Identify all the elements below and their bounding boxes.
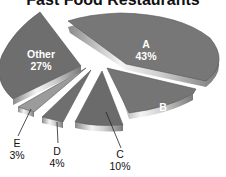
slice-other-name: Other [21,48,61,60]
slice-other-pct: 27% [21,60,61,72]
slice-d-label: D 4% [41,145,73,169]
slice-c-pct: 10% [102,160,138,172]
slice-d-pct: 4% [41,157,73,169]
slice-e-label: E 3% [1,137,33,161]
slice-a-pct: 43% [128,50,164,62]
slice-c-name: C [102,148,138,160]
slice-b-pct: 13% [145,113,181,125]
slice-a-name: A [128,38,164,50]
slice-c-label: C 10% [102,148,138,172]
slice-e-name: E [1,137,33,149]
slice-other-label: Other 27% [21,48,61,72]
slice-d-name: D [41,145,73,157]
slice-b-label: B 13% [145,101,181,125]
slice-b-name: B [145,101,181,113]
slice-a-label: A 43% [128,38,164,62]
slice-e-pct: 3% [1,149,33,161]
